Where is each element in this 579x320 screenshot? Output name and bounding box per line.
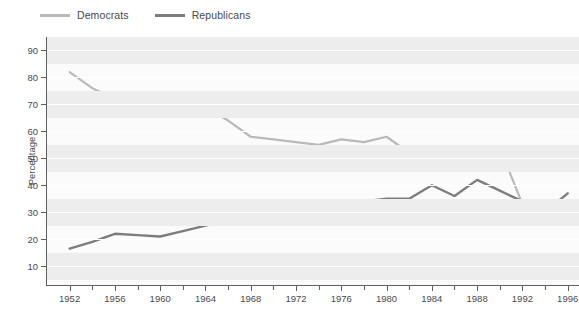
x-tick-minor	[319, 286, 320, 290]
y-tick	[41, 50, 46, 51]
x-tick	[522, 286, 523, 291]
legend-label-democrats: Democrats	[77, 9, 129, 21]
plot-area	[47, 37, 579, 285]
gridline	[47, 104, 579, 105]
x-tick-minor	[273, 286, 274, 290]
x-tick-minor	[228, 286, 229, 290]
x-tick-minor	[409, 286, 410, 290]
line-chart: Democrats Republicans Percentage 1020304…	[0, 0, 579, 320]
gridline	[47, 131, 579, 132]
x-tick-minor	[138, 286, 139, 290]
x-tick	[432, 286, 433, 291]
x-tick-minor	[500, 286, 501, 290]
x-tick-label: 1988	[467, 293, 488, 304]
x-tick-label: 1960	[150, 293, 171, 304]
gridline	[47, 50, 579, 51]
x-tick-label: 1968	[240, 293, 261, 304]
gridline	[47, 77, 579, 78]
y-tick	[41, 77, 46, 78]
legend-swatch-democrats	[40, 14, 70, 17]
legend-label-republicans: Republicans	[192, 9, 251, 21]
x-tick-label: 1996	[557, 293, 578, 304]
x-tick-label: 1984	[421, 293, 442, 304]
x-tick-label: 1972	[285, 293, 306, 304]
y-axis-line	[46, 37, 47, 286]
y-tick-label: 40	[27, 180, 38, 191]
gridline	[47, 185, 579, 186]
y-tick-label: 30	[27, 207, 38, 218]
x-tick	[341, 286, 342, 291]
x-tick-label: 1980	[376, 293, 397, 304]
gridline	[47, 158, 579, 159]
x-tick	[115, 286, 116, 291]
x-tick	[387, 286, 388, 291]
x-tick-label: 1956	[104, 293, 125, 304]
x-tick-label: 1992	[512, 293, 533, 304]
x-tick	[477, 286, 478, 291]
x-tick-minor	[183, 286, 184, 290]
gridline	[47, 239, 579, 240]
y-tick-label: 20	[27, 234, 38, 245]
y-tick-label: 50	[27, 153, 38, 164]
y-tick-label: 90	[27, 45, 38, 56]
legend-item-republicans[interactable]: Republicans	[155, 9, 251, 21]
x-tick-minor	[454, 286, 455, 290]
y-tick	[41, 185, 46, 186]
x-tick	[160, 286, 161, 291]
x-tick-label: 1976	[331, 293, 352, 304]
gridline	[47, 266, 579, 267]
y-tick-label: 80	[27, 72, 38, 83]
x-tick	[70, 286, 71, 291]
x-tick	[568, 286, 569, 291]
legend-item-democrats[interactable]: Democrats	[40, 9, 129, 21]
x-tick-label: 1964	[195, 293, 216, 304]
x-tick-minor	[92, 286, 93, 290]
y-tick-label: 10	[27, 261, 38, 272]
y-tick-label: 70	[27, 99, 38, 110]
legend-swatch-republicans	[155, 14, 185, 17]
y-tick	[41, 239, 46, 240]
y-tick	[41, 104, 46, 105]
y-tick	[41, 158, 46, 159]
x-tick	[205, 286, 206, 291]
y-tick-label: 60	[27, 126, 38, 137]
y-tick	[41, 266, 46, 267]
chart-legend: Democrats Republicans	[40, 4, 251, 26]
y-tick	[41, 212, 46, 213]
x-tick	[251, 286, 252, 291]
x-tick	[296, 286, 297, 291]
x-tick-minor	[364, 286, 365, 290]
gridline	[47, 212, 579, 213]
y-axis-title-wrap: Percentage	[14, 37, 26, 285]
x-tick-label: 1952	[59, 293, 80, 304]
y-tick	[41, 131, 46, 132]
x-tick-minor	[545, 286, 546, 290]
